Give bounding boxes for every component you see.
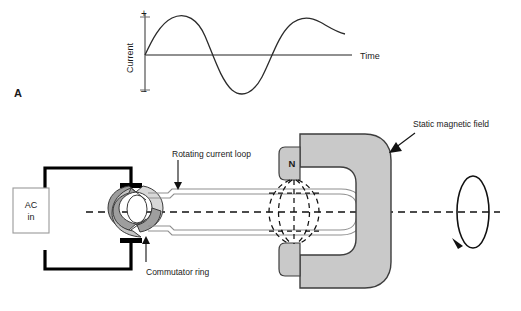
- circuit-wire-bottom: [45, 240, 131, 269]
- callout-static-magnetic-field: Static magnetic field: [413, 119, 489, 129]
- commutator-ring-assembly: [108, 186, 163, 237]
- chart-y-axis-label: Current: [125, 42, 135, 73]
- magnet-north-pole-label: N: [289, 158, 296, 169]
- callout-rotating-current-loop: Rotating current loop: [172, 149, 251, 159]
- figure-canvas: Current Time + – A AC in Rotating curren…: [0, 0, 521, 311]
- chart-positive-sign: +: [141, 8, 147, 19]
- ac-source-label-line1: AC: [25, 200, 38, 210]
- loop-lower-inner: [148, 212, 357, 230]
- commutator-bore: [127, 195, 147, 223]
- loop-upper-inner: [148, 194, 357, 208]
- static-magnet: [279, 134, 391, 288]
- loop-lower-outer: [148, 212, 362, 235]
- loop-upper-outer: [148, 189, 362, 208]
- circuit-wire-top: [45, 168, 131, 188]
- callout-commutator-ring: Commutator ring: [146, 267, 210, 277]
- brush-contact-bottom: [120, 238, 142, 243]
- magnet-yoke: [300, 134, 391, 288]
- ac-source-label-line2: in: [27, 212, 34, 222]
- ac-source-box: [13, 188, 49, 233]
- chart-negative-sign: –: [141, 85, 147, 96]
- rotation-arrowhead: [452, 238, 463, 249]
- ac-circuit-wiring: [45, 168, 142, 269]
- current-time-chart: [140, 14, 352, 94]
- chart-x-axis-label: Time: [360, 51, 380, 61]
- magnet-pole-south: [279, 243, 300, 276]
- panel-label-a: A: [14, 87, 22, 99]
- diagram-svg: Current Time + – A AC in Rotating curren…: [0, 0, 521, 311]
- leader-arrowhead-commutator: [142, 236, 150, 244]
